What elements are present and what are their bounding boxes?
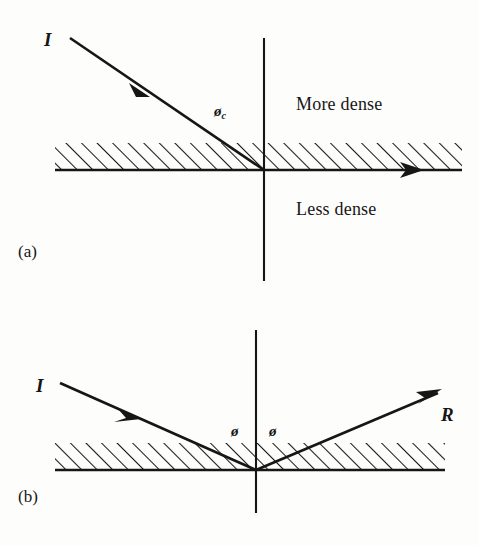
diagram-canvas	[0, 0, 478, 545]
panel-a-upper-medium-label: More dense	[296, 95, 382, 113]
panel-b-incident-ray-label: I	[36, 376, 43, 395]
panel-a-critical-angle-subscript: c	[222, 110, 226, 121]
panel-a-lower-medium-label: Less dense	[296, 200, 376, 218]
panel-b-caption-label: (b)	[18, 488, 38, 505]
panel-b-incidence-angle-label: ø	[231, 424, 239, 439]
panel-b-reflection-angle-label: ø	[269, 424, 277, 439]
panel-b-reflected-ray-label: R	[441, 405, 454, 424]
panel-a-critical-angle-label: øc	[214, 104, 226, 121]
panel-b-group	[50, 330, 450, 513]
panel-b-incident-ray-arrowhead	[114, 409, 141, 422]
panel-a-critical-angle-symbol: ø	[214, 103, 222, 119]
panel-a-caption-label: (a)	[18, 243, 37, 260]
panel-a-group	[50, 38, 468, 281]
panel-a-incident-ray-label: I	[44, 30, 51, 49]
figure-total-internal-reflection: I øc More dense Less dense (a) I ø ø R (…	[0, 0, 478, 545]
